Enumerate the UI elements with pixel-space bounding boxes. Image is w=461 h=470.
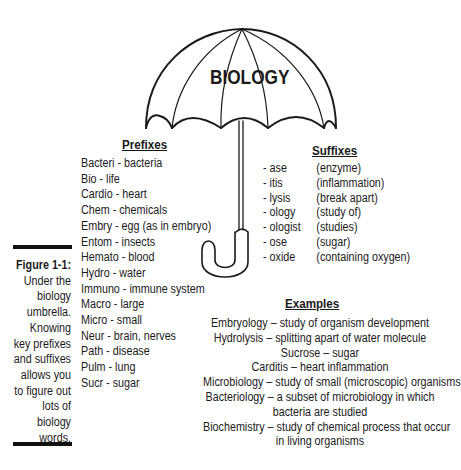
suffix-meaning: (inflammation) [316, 176, 384, 191]
caption-label: Figure 1-1: [10, 258, 71, 274]
prefix-item: Hemato - blood [81, 250, 211, 266]
caption-line: to figure out [10, 384, 71, 400]
suffix: - ology [263, 205, 316, 220]
caption-line: Knowing [10, 321, 71, 337]
examples-list: Embryology – study of organism developme… [184, 316, 456, 449]
suffix-item: - lysis(break apart) [263, 191, 410, 206]
prefix-item: Cardio - heart [81, 187, 211, 203]
suffix-list: - ase(enzyme) - itis(inflammation) - lys… [263, 161, 434, 265]
caption-line: and suffixes [10, 352, 71, 368]
suffix-item: - itis(inflammation) [263, 176, 410, 191]
caption-line: key prefixes [10, 337, 71, 353]
suffix-item: - ology(study of) [263, 205, 410, 220]
suffix: - itis [263, 176, 316, 191]
suffix: - lysis [263, 191, 316, 206]
prefix-item: Entom - insects [81, 235, 211, 251]
suffix-meaning: (containing oxygen) [316, 250, 410, 265]
example-line: Bacteriology – a subset of microbiology … [203, 390, 437, 405]
examples-heading: Examples [285, 296, 339, 311]
caption-bottom-rule [13, 442, 72, 446]
caption-line: biology [10, 415, 71, 431]
caption-line: lots of [10, 399, 71, 415]
caption-line: umbrella. [10, 305, 71, 321]
caption-line: Under the [10, 274, 71, 290]
prefix-item: Hydro - water [81, 266, 211, 282]
prefix-item: Macro - large [81, 297, 211, 313]
prefix-item: Bio - life [81, 172, 211, 188]
example-line: Hydrolysis – splitting apart of water mo… [203, 331, 437, 346]
prefix-item: Embry - egg (as in embryo) [81, 219, 211, 235]
example-line: Biochemistry – study of chemical process… [203, 420, 437, 435]
prefixes-heading: Prefixes [122, 137, 167, 152]
suffix: - ologist [263, 220, 316, 235]
suffixes-heading: Suffixes [312, 143, 357, 158]
prefix-item: Chem - chemicals [81, 203, 211, 219]
suffix-item: - ose(sugar) [263, 235, 410, 250]
caption-line: allows you [10, 368, 71, 384]
umbrella-title: BIOLOGY [210, 65, 289, 89]
prefix-item: Bacteri - bacteria [81, 156, 211, 172]
suffix-item: - oxide(containing oxygen) [263, 250, 410, 265]
example-line: Embryology – study of organism developme… [203, 316, 437, 331]
example-line: Sucrose – sugar [203, 346, 437, 361]
suffix-meaning: (enzyme) [316, 161, 361, 176]
figure-caption: Figure 1-1: Under the biology umbrella. … [0, 258, 71, 446]
example-line: bacteria are studied [203, 405, 437, 420]
suffix-meaning: (study of) [316, 205, 361, 220]
example-line: Carditis – heart inflammation [203, 360, 437, 375]
suffix-item: - ase(enzyme) [263, 161, 410, 176]
suffix: - ase [263, 161, 316, 176]
suffix-meaning: (sugar) [316, 235, 350, 250]
suffix-meaning: (studies) [316, 220, 357, 235]
suffix-item: - ologist(studies) [263, 220, 410, 235]
caption-line: biology [10, 289, 71, 305]
example-line: in living organisms [203, 434, 437, 449]
example-line: Microbiology – study of small (microscop… [203, 375, 437, 390]
prefix-item: Immuno - immune system [81, 282, 211, 298]
suffix: - oxide [263, 250, 316, 265]
suffix-meaning: (break apart) [316, 191, 378, 206]
caption-top-rule [13, 245, 72, 249]
suffix: - ose [263, 235, 316, 250]
